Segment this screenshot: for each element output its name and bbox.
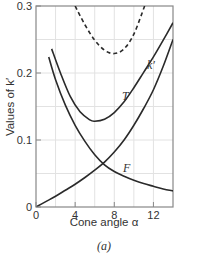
axis-ticks: 0481200.10.20.3 (17, 0, 160, 221)
x-tick-label: 0 (33, 209, 39, 221)
x-axis-label: Cone angle α (70, 216, 139, 228)
curve-label-kprime: k′ (147, 58, 155, 72)
y-tick-label: 0.1 (17, 134, 32, 146)
chart: 0481200.10.20.3 Values of k′ Cone angle … (0, 0, 199, 260)
y-tick-label: 0.2 (17, 67, 32, 79)
caption: (a) (97, 239, 111, 253)
y-axis-label: Values of k′ (4, 78, 16, 136)
grid (36, 6, 173, 207)
x-tick-label: 12 (147, 209, 159, 221)
y-tick-label: 0 (26, 201, 32, 213)
y-tick-label: 0.3 (17, 0, 32, 12)
curve-F (49, 57, 173, 191)
curve-label-F: F (122, 161, 131, 175)
